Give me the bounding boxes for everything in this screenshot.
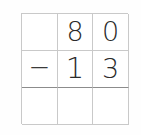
minus-sign-icon: −: [29, 54, 51, 80]
cell-minuend-tens: 8: [58, 14, 93, 51]
cell-operator: −: [22, 51, 58, 88]
cell-answer-ones[interactable]: [93, 88, 129, 125]
cell-subtrahend-tens: 1: [58, 51, 93, 88]
cell-minuend-ones: 0: [93, 14, 129, 51]
subtrahend-tens-digit: 1: [66, 54, 84, 83]
cell-minuend-operator: [22, 14, 58, 51]
cell-answer-operator[interactable]: [22, 88, 58, 125]
cell-answer-tens[interactable]: [58, 88, 93, 125]
arithmetic-grid: 8 0 − 1 3: [21, 13, 128, 124]
subtrahend-ones-digit: 3: [102, 55, 119, 82]
minuend-ones-digit: 0: [102, 18, 119, 45]
minuend-tens-digit: 8: [66, 18, 83, 45]
cell-subtrahend-ones: 3: [93, 51, 129, 88]
subtraction-worksheet: 8 0 − 1 3: [0, 0, 141, 135]
